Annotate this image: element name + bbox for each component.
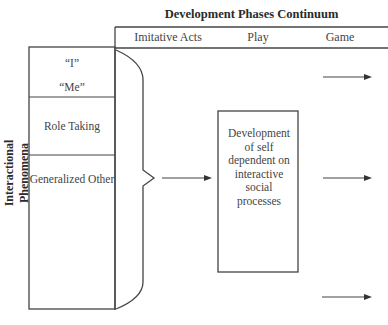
diagram-title: Development Phases Continuum (115, 7, 388, 22)
phenomenon-me: “Me” (29, 80, 115, 94)
arrowhead-icon (364, 175, 372, 181)
arrowhead-icon (204, 175, 212, 181)
brace-icon (116, 50, 154, 309)
phenomenon-generalized-other: Generalized Other (29, 172, 115, 186)
center-line: of self (220, 141, 298, 155)
center-line: interactive (220, 168, 298, 182)
center-box-text: Development of self dependent on interac… (220, 127, 298, 208)
center-line: social (220, 181, 298, 195)
row-axis-label: Interactional Phenomena (2, 113, 32, 233)
phenomenon-role-taking: Role Taking (29, 119, 115, 133)
arrowhead-icon (364, 294, 372, 300)
phase-imitative-acts: Imitative Acts (118, 30, 218, 45)
diagram-lines (0, 0, 388, 325)
phase-play: Play (218, 30, 298, 45)
center-line: processes (220, 195, 298, 209)
center-line: dependent on (220, 154, 298, 168)
center-line: Development (220, 127, 298, 141)
phenomenon-i: “I” (29, 56, 115, 70)
arrowhead-icon (364, 74, 372, 80)
phase-game: Game (305, 30, 375, 45)
